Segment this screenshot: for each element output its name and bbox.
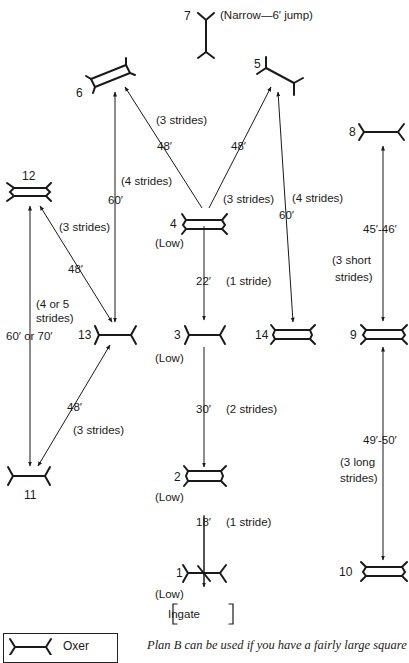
strides-12-11-line2: strides) — [36, 312, 74, 325]
jump-label-11: 11 — [24, 489, 36, 502]
jump-5-icon — [257, 57, 303, 95]
strides-8-9-line1: (3 short — [332, 254, 371, 267]
jump-9-icon — [361, 325, 407, 344]
distance-4-6: 48′ — [157, 140, 172, 153]
strides-4-5: (3 strides) — [223, 193, 274, 206]
jump-2-icon — [184, 466, 226, 486]
jump-8-icon — [359, 124, 404, 140]
jump-label-2: 2 — [174, 471, 181, 484]
jump-6-icon — [86, 58, 135, 93]
strides-3-4: (1 stride) — [226, 275, 271, 288]
jump-7-note: (Narrow—6′ jump) — [220, 9, 313, 22]
strides-13-12: (3 strides) — [59, 221, 110, 234]
distance-13-12: 48′ — [68, 263, 83, 276]
jump-label-8: 8 — [349, 126, 356, 139]
strides-4-6: (3 strides) — [156, 114, 207, 127]
jump-label-5: 5 — [254, 58, 261, 71]
distance-1-2: 18′ — [196, 516, 211, 529]
jump-12-icon — [7, 183, 51, 201]
jump-label-1: 1 — [176, 567, 183, 580]
strides-9-10-line1: (3 long — [340, 456, 375, 469]
strides-5-14: (4 strides) — [292, 192, 343, 205]
strides-1-2: (1 stride) — [226, 516, 271, 529]
distance-5-14: 60′ — [279, 209, 294, 222]
jump-label-6: 6 — [76, 87, 83, 100]
strides-9-10-line2: strides) — [340, 472, 378, 485]
jump-13-icon — [95, 326, 136, 344]
distance-6-13: 60′ — [108, 194, 123, 207]
distance-2-3: 30′ — [196, 403, 211, 416]
jump-10-icon — [361, 562, 407, 581]
strides-8-9-line2: strides) — [335, 271, 373, 284]
jump-label-7: 7 — [184, 10, 191, 23]
strides-6-13: (4 strides) — [121, 175, 172, 188]
ingate-label: Ingate — [168, 608, 200, 620]
distance-3-4: 22′ — [196, 275, 211, 288]
jump-label-9: 9 — [350, 329, 357, 342]
jump-1-note: (Low) — [155, 588, 184, 601]
jump-label-13: 13 — [78, 329, 91, 342]
jump-11-icon — [8, 467, 50, 485]
jump-7-icon — [198, 13, 214, 58]
jump-3-icon — [185, 326, 225, 344]
strides-13-11: (3 strides) — [73, 424, 124, 437]
jump-label-10: 10 — [339, 566, 352, 579]
legend-box — [3, 633, 118, 663]
distance-12-11: 60′ or 70′ — [6, 330, 53, 343]
distance-8-9: 45′-46′ — [363, 223, 397, 236]
jump-label-3: 3 — [174, 329, 181, 342]
caption-text: Plan B can be used if you have a fairly … — [147, 638, 407, 653]
distance-4-5: 48′ — [231, 140, 246, 153]
strides-2-3: (2 strides) — [226, 403, 277, 416]
jump-3-note: (Low) — [155, 352, 184, 365]
jump-label-4: 4 — [170, 218, 177, 231]
arrow-5-14 — [278, 92, 293, 322]
jump-4-note: (Low) — [155, 237, 184, 250]
strides-12-11-line1: (4 or 5 — [36, 298, 69, 311]
jump-label-12: 12 — [22, 170, 35, 183]
jump-2-note: (Low) — [155, 491, 184, 504]
distance-13-11: 48′ — [67, 401, 82, 414]
jump-14-icon — [271, 325, 315, 344]
distance-9-10: 49′-50′ — [363, 434, 397, 447]
jump-label-14: 14 — [255, 329, 268, 342]
legend-oxer-label: Oxer — [63, 639, 89, 653]
